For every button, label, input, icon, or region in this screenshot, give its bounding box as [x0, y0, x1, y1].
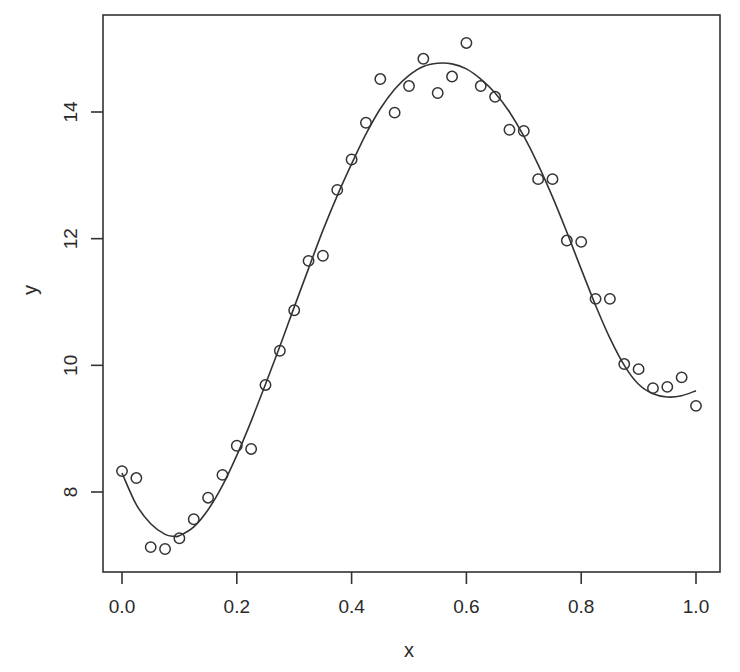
data-point: [418, 54, 428, 64]
data-point: [662, 382, 672, 392]
data-point: [476, 81, 486, 91]
smooth-fit-line: [122, 63, 696, 537]
y-tick-label: 14: [60, 101, 81, 123]
y-tick-label: 8: [60, 487, 81, 498]
x-axis: 0.00.20.40.60.81.0: [109, 572, 709, 617]
data-points: [117, 38, 701, 554]
data-point: [676, 372, 686, 382]
data-point: [447, 71, 457, 81]
data-point: [160, 544, 170, 554]
data-point: [203, 493, 213, 503]
x-tick-label: 0.2: [224, 596, 250, 617]
data-point: [461, 38, 471, 48]
data-point: [318, 251, 328, 261]
data-point: [131, 473, 141, 483]
data-point: [547, 174, 557, 184]
data-point: [217, 470, 227, 480]
data-point: [404, 81, 414, 91]
y-axis: 8101214: [60, 101, 103, 497]
data-point: [146, 542, 156, 552]
x-tick-label: 0.0: [109, 596, 135, 617]
x-tick-label: 0.8: [568, 596, 594, 617]
data-point: [189, 514, 199, 524]
data-point: [433, 88, 443, 98]
y-axis-title: y: [19, 285, 41, 295]
y-tick-label: 10: [60, 355, 81, 376]
data-point: [533, 174, 543, 184]
data-point: [633, 364, 643, 374]
data-point: [648, 383, 658, 393]
data-point: [375, 74, 385, 84]
data-point: [246, 444, 256, 454]
x-tick-label: 0.4: [338, 596, 365, 617]
data-point: [174, 533, 184, 543]
x-tick-label: 0.6: [453, 596, 479, 617]
x-axis-title: x: [404, 639, 414, 661]
data-point: [590, 294, 600, 304]
scatter-plot: 0.00.20.40.60.81.0 8101214 x y: [0, 0, 740, 672]
data-point: [691, 401, 701, 411]
data-point: [605, 294, 615, 304]
x-tick-label: 1.0: [683, 596, 709, 617]
plot-frame: [103, 15, 720, 572]
data-point: [504, 125, 514, 135]
data-point: [361, 118, 371, 128]
data-point: [389, 107, 399, 117]
data-point: [576, 237, 586, 247]
data-point: [332, 185, 342, 195]
y-tick-label: 12: [60, 228, 81, 249]
